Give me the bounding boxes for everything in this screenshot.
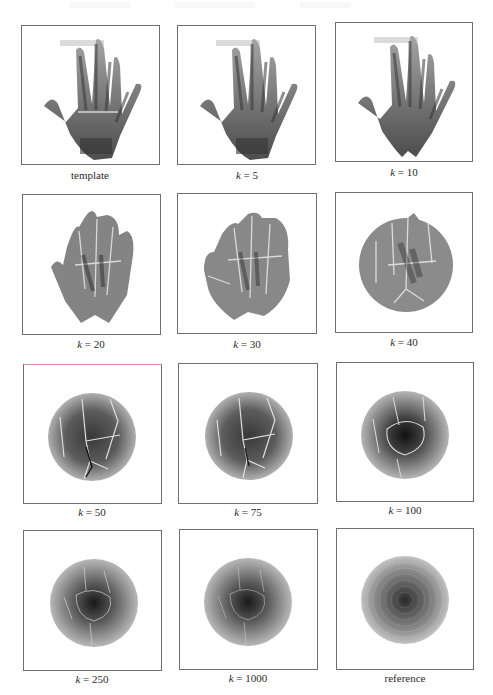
caption-k30: k = 30 — [177, 338, 317, 350]
panel-k100-image — [336, 362, 474, 502]
reference-disc-icon — [337, 529, 474, 670]
hand-xray-icon — [336, 23, 473, 162]
caption-k20: k = 20 — [21, 338, 161, 350]
warped-hand-icon — [178, 194, 317, 334]
panel-k20-image — [22, 194, 161, 335]
hand-xray-icon — [22, 26, 160, 165]
veined-disc-icon — [179, 364, 318, 504]
panel-k30-image — [177, 193, 317, 334]
warped-hand-icon — [23, 195, 161, 335]
bleed-through-mark — [300, 2, 350, 8]
panel-k1000-image — [179, 529, 318, 670]
caption-k40: k = 40 — [334, 336, 474, 348]
bleed-through-mark — [175, 2, 255, 8]
bleed-through-mark — [70, 2, 130, 8]
caption-template: template — [20, 169, 160, 181]
panel-k250-image — [23, 530, 162, 671]
caption-k1000: k = 1000 — [178, 672, 318, 684]
panel-k50-image — [23, 364, 162, 504]
faint-veined-disc-icon — [24, 531, 162, 671]
faint-veined-disc-icon — [180, 530, 318, 670]
panel-template-image — [21, 25, 160, 165]
panel-k40-image — [335, 192, 473, 333]
veined-disc-icon — [24, 365, 162, 504]
warped-hand-icon — [336, 193, 473, 333]
caption-k5: k = 5 — [177, 169, 317, 181]
veined-disc-icon — [337, 363, 474, 502]
caption-k50: k = 50 — [22, 506, 162, 518]
caption-k100: k = 100 — [335, 504, 475, 516]
caption-k75: k = 75 — [178, 506, 318, 518]
panel-k75-image — [178, 363, 318, 504]
hand-xray-icon — [178, 26, 316, 165]
panel-reference-image — [336, 528, 474, 670]
caption-reference: reference — [335, 672, 475, 684]
panel-k10-image — [335, 22, 473, 162]
caption-k10: k = 10 — [334, 166, 474, 178]
panel-k5-image — [177, 25, 316, 165]
caption-k250: k = 250 — [22, 673, 162, 685]
